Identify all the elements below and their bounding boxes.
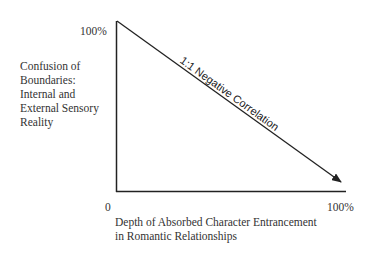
y-axis-label-line: Boundaries:	[20, 73, 110, 87]
y-axis-label-line: Internal and	[20, 87, 110, 101]
x-axis-min-label: 0	[105, 200, 111, 214]
x-axis-label-line: Depth of Absorbed Character Entrancement	[115, 215, 317, 229]
y-axis-max-label: 100%	[80, 24, 107, 38]
y-axis-label: Confusion of Boundaries: Internal and Ex…	[20, 59, 110, 129]
x-axis-label-line: in Romantic Relationships	[115, 229, 317, 243]
y-axis-label-line: Reality	[20, 115, 110, 129]
x-axis-max-label: 100%	[327, 200, 354, 214]
y-axis-label-line: External Sensory	[20, 101, 110, 115]
y-axis-label-line: Confusion of	[20, 59, 110, 73]
correlation-arrow	[117, 21, 341, 182]
x-axis-label: Depth of Absorbed Character Entrancement…	[115, 215, 317, 243]
